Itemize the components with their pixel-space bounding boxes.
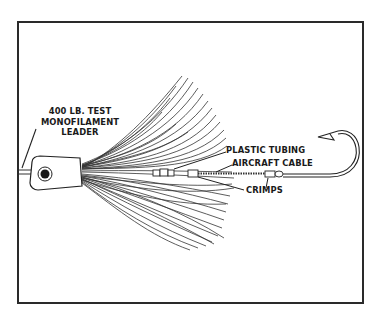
skirt-strands: [82, 76, 234, 250]
crimps-label: CRIMPS: [246, 185, 283, 196]
leader-label-line2: MONOFILAMENT: [35, 117, 125, 128]
leader-label: 400 LB. TEST MONOFILAMENT LEADER: [35, 106, 125, 138]
leader-label-line1: 400 LB. TEST: [35, 106, 125, 117]
cable-pointer: [216, 165, 232, 172]
leader-label-line3: LEADER: [35, 127, 125, 138]
plastic-tubing: [153, 169, 198, 177]
lure-head: [30, 156, 82, 190]
tubing-pointer: [174, 152, 226, 169]
crimps-pointer-1: [198, 177, 244, 190]
crimps: [265, 171, 283, 177]
plastic-tubing-label: PLASTIC TUBING: [226, 145, 305, 156]
lure-illustration: [0, 0, 379, 315]
aircraft-cable-label: AIRCRAFT CABLE: [232, 158, 313, 169]
monofilament-leader: [19, 170, 32, 174]
